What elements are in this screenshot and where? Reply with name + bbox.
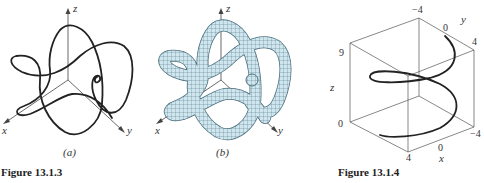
y-axis-label: y [278, 124, 283, 136]
caption-figure-13-1-4: Figure 13.1.4 [338, 166, 399, 178]
helix-box-plot [300, 0, 484, 165]
figure-13-1-4: −4 y 0 4 9 z 0 −4 0 4 x [300, 0, 484, 165]
y-axis-label: y [461, 13, 466, 25]
x-tick-back: −4 [470, 128, 481, 139]
y-tick-left: −4 [412, 4, 423, 15]
y-tick-mid: 0 [443, 22, 448, 33]
x-axis-label: x [439, 152, 444, 164]
z-axis-label: z [330, 81, 334, 93]
sublabel-b: (b) [216, 146, 229, 158]
sublabel-a: (a) [63, 146, 76, 158]
caption-figure-13-1-3: Figure 13.1.3 [1, 166, 62, 178]
tube-knot-plot [135, 0, 300, 160]
knot-curve-plot [0, 0, 150, 160]
z-tick-top: 9 [339, 47, 344, 58]
figure-13-1-3-a: z x y (a) [0, 0, 150, 160]
y-axis-label: y [127, 124, 132, 136]
y-tick-right: 4 [472, 36, 477, 47]
figure-13-1-3-b: z x y (b) [135, 0, 300, 160]
z-axis-label: z [226, 2, 230, 14]
z-tick-bottom: 0 [338, 118, 343, 129]
z-axis-label: z [73, 2, 77, 14]
x-tick-front: 4 [406, 152, 411, 163]
x-axis-label: x [155, 124, 160, 136]
x-axis-label: x [2, 124, 7, 136]
